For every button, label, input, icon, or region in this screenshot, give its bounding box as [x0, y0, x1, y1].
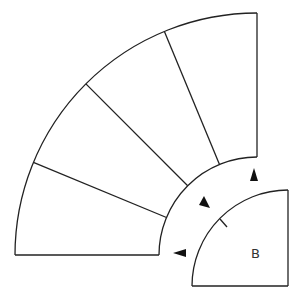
segment-divider-2 — [86, 84, 188, 186]
large-annular-sector — [15, 13, 257, 255]
motion-arrows — [173, 168, 258, 257]
segment-divider-1 — [33, 162, 166, 217]
label-b: B — [251, 246, 260, 261]
arrow-left-icon — [173, 249, 186, 257]
arrow-up-icon — [250, 168, 258, 181]
arrow-diagonal-icon — [199, 196, 210, 208]
diagram-canvas: B — [0, 0, 299, 306]
b-tick-mark — [220, 219, 227, 227]
segment-divider-3 — [164, 31, 219, 164]
